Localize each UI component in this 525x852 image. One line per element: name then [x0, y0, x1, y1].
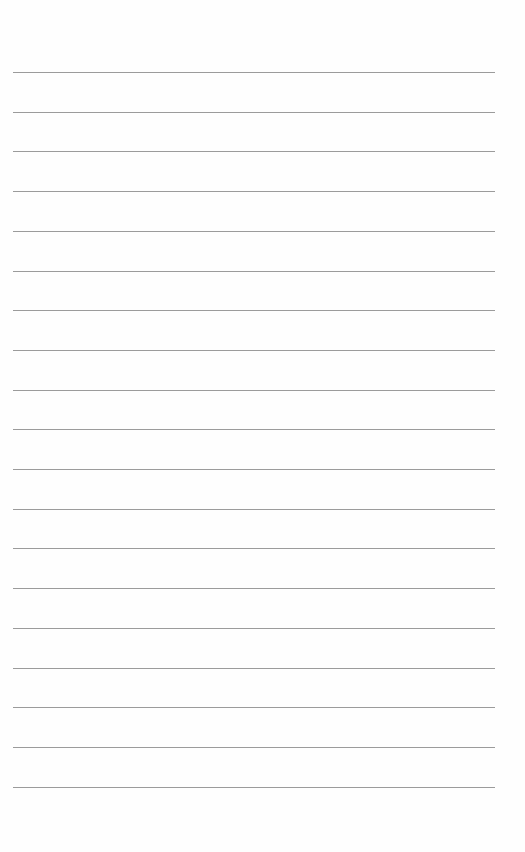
- ruled-line: [13, 588, 495, 589]
- ruled-line: [13, 350, 495, 351]
- ruled-line: [13, 231, 495, 232]
- ruled-line: [13, 191, 495, 192]
- ruled-line: [13, 151, 495, 152]
- ruled-line: [13, 429, 495, 430]
- ruled-line: [13, 668, 495, 669]
- ruled-line: [13, 310, 495, 311]
- ruled-line: [13, 509, 495, 510]
- ruled-line: [13, 271, 495, 272]
- ruled-line: [13, 707, 495, 708]
- ruled-line: [13, 72, 495, 73]
- ruled-line: [13, 747, 495, 748]
- ruled-line: [13, 548, 495, 549]
- ruled-line: [13, 787, 495, 788]
- ruled-line: [13, 469, 495, 470]
- ruled-line: [13, 390, 495, 391]
- ruled-line: [13, 628, 495, 629]
- ruled-line: [13, 112, 495, 113]
- ruled-page: [0, 0, 525, 852]
